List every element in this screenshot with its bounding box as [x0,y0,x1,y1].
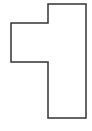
diagram-canvas [0,0,92,131]
polygon-shape [11,4,86,118]
